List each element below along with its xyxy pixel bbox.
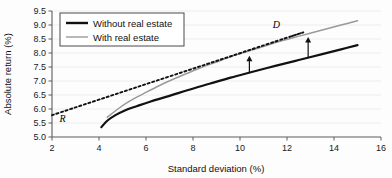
y-tick-label: 8.5 [33,34,46,44]
x-tick-label: 12 [282,143,292,153]
y-tick-label: 6.5 [33,90,46,100]
y-tick-label: 8.0 [33,48,46,58]
y-axis-ticks: 5.05.56.06.57.07.58.08.59.09.5 [33,6,52,142]
chart-container: 5.05.56.06.57.07.58.08.59.09.5 246810121… [0,0,392,178]
x-tick-label: 10 [235,143,245,153]
x-axis-title: Standard deviation (%) [168,163,265,174]
annotation-label-d: D [272,19,281,30]
x-tick-label: 2 [49,143,54,153]
y-tick-label: 7.5 [33,62,46,72]
arrow-head [305,37,311,43]
legend-label-with-real-estate: With real estate [93,32,159,43]
legend-label-without-real-estate: Without real estate [93,18,172,29]
y-tick-label: 5.5 [33,118,46,128]
y-tick-label: 5.0 [33,132,46,142]
y-axis-title: Absolute return (%) [2,33,13,115]
y-tick-label: 6.0 [33,104,46,114]
legend: Without real estate With real estate [60,13,184,46]
chart-plot-svg: 5.05.56.06.57.07.58.08.59.09.5 246810121… [0,0,392,178]
y-tick-label: 7.0 [33,76,46,86]
arrow-head [246,56,252,62]
x-tick-label: 6 [143,143,148,153]
x-tick-label: 16 [376,143,386,153]
x-tick-label: 4 [96,143,101,153]
x-tick-label: 14 [329,143,339,153]
annotation-label-r: R [59,113,66,124]
y-tick-label: 9.5 [33,6,46,16]
y-tick-label: 9.0 [33,20,46,30]
x-axis-ticks: 246810121416 [49,137,386,153]
x-tick-label: 8 [190,143,195,153]
